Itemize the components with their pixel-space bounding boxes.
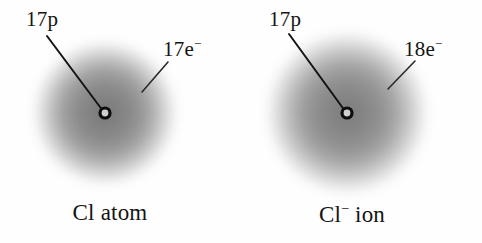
caption-cl-ion-base: Cl	[319, 202, 341, 227]
nucleus-cl-ion	[342, 108, 352, 118]
electron-label-cl-ion-base: 18e	[404, 37, 435, 61]
electron-label-cl-atom-base: 17e	[163, 37, 194, 61]
proton-label-cl-atom: 17p	[26, 9, 58, 30]
electron-label-cl-ion: 18e−	[404, 37, 442, 60]
caption-cl-ion: Cl− ion	[272, 201, 432, 226]
electron-cloud-figure: 17p 17e− Cl atom 17p 18e− Cl− ion	[0, 0, 482, 243]
electron-label-cl-atom: 17e−	[163, 37, 201, 60]
electron-label-cl-ion-superscript: −	[435, 36, 442, 51]
proton-label-cl-ion: 17p	[269, 9, 301, 30]
nucleus-cl-atom	[100, 108, 110, 118]
caption-cl-atom: Cl atom	[30, 201, 190, 224]
electron-label-cl-atom-superscript: −	[194, 36, 201, 51]
caption-cl-ion-superscript: −	[341, 200, 349, 216]
caption-cl-ion-tail: ion	[349, 202, 385, 227]
cl-atom-group	[27, 35, 183, 191]
